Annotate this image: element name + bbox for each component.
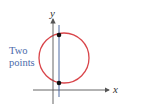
intersection-point-bottom [57, 81, 62, 86]
annotation-line-1: Two [9, 45, 28, 56]
vertical-line-test-diagram: y x Two points [0, 0, 161, 105]
circle-curve [39, 33, 89, 83]
y-axis-label: y [49, 7, 55, 19]
x-axis-label: x [112, 83, 118, 95]
intersection-point-top [57, 33, 62, 38]
annotation-line-2: points [9, 57, 35, 68]
